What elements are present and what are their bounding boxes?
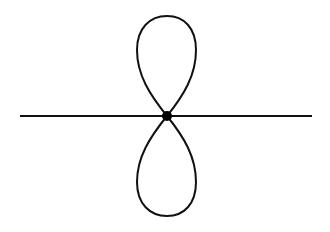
lower-lobe xyxy=(137,116,196,216)
figure-eight-diagram xyxy=(0,0,330,232)
diagram-svg xyxy=(0,0,330,232)
center-node-dot xyxy=(162,111,172,121)
upper-lobe xyxy=(137,16,196,116)
